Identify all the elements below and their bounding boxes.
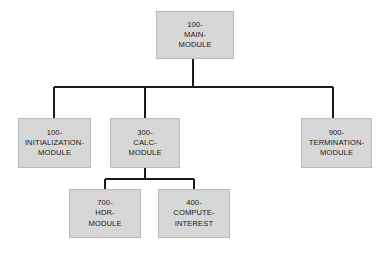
module-label-line: 300-	[137, 128, 153, 138]
module-box-hdr[interactable]: 700- HDR- MODULE	[69, 189, 141, 238]
module-label-line: 700-	[97, 198, 113, 208]
module-label-line: MODULE	[88, 219, 121, 229]
module-label-line: HDR-	[95, 208, 114, 218]
module-label-line: COMPUTE-	[173, 208, 214, 218]
module-box-initialization[interactable]: 100- INITIALIZATION- MODULE	[18, 118, 91, 168]
module-label-line: MODULE	[128, 148, 161, 158]
module-label-line: 100-	[187, 20, 203, 30]
module-label-line: MAIN-	[184, 30, 206, 40]
structure-chart: 100- MAIN- MODULE 100- INITIALIZATION- M…	[0, 0, 386, 254]
module-label-line: MODULE	[178, 40, 211, 50]
module-box-main[interactable]: 100- MAIN- MODULE	[156, 11, 234, 59]
module-box-compute-interest[interactable]: 400- COMPUTE- INTEREST	[158, 189, 230, 238]
module-box-termination[interactable]: 900- TERMINATION- MODULE	[301, 118, 372, 168]
module-label-line: 900-	[329, 128, 345, 138]
module-label-line: INITIALIZATION-	[25, 138, 84, 148]
module-label-line: MODULE	[320, 148, 353, 158]
module-label-line: MODULE	[38, 148, 71, 158]
module-label-line: INTEREST	[175, 219, 213, 229]
module-box-calc[interactable]: 300- CALC- MODULE	[110, 118, 180, 168]
module-label-line: CALC-	[133, 138, 156, 148]
module-label-line: 100-	[47, 128, 63, 138]
module-label-line: TERMINATION-	[309, 138, 364, 148]
module-label-line: 400-	[186, 198, 202, 208]
